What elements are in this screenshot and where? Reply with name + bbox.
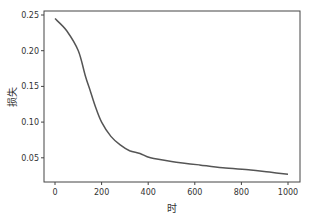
y-axis-label: 损失 (6, 87, 18, 107)
y-tick-label: 0.25 (21, 11, 39, 20)
x-tick-label: 600 (187, 188, 202, 197)
y-tick-label: 0.20 (21, 47, 39, 56)
x-tick-label: 0 (52, 188, 57, 197)
x-tick-label: 400 (141, 188, 156, 197)
y-tick-label: 0.05 (21, 154, 39, 163)
plot-area (44, 11, 300, 182)
y-tick-label: 0.15 (21, 82, 39, 91)
y-axis-ticks: 0.050.100.150.200.25 (21, 11, 44, 163)
x-tick-label: 200 (94, 188, 109, 197)
x-tick-label: 1000 (278, 188, 298, 197)
y-tick-label: 0.10 (21, 118, 39, 127)
loss-line-chart: 02004006008001000 0.050.100.150.200.25 时… (0, 0, 311, 219)
x-tick-label: 800 (234, 188, 249, 197)
x-axis-ticks: 02004006008001000 (52, 182, 298, 197)
x-axis-label: 时 (167, 203, 177, 214)
